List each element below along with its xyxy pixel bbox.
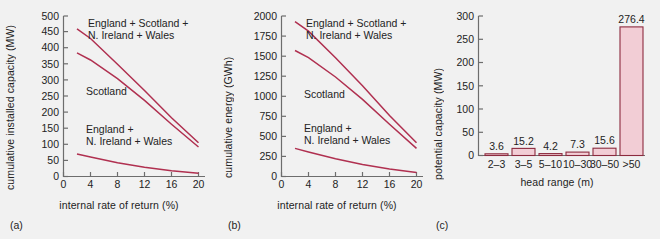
bar-value-label: 15.6 (594, 134, 615, 146)
x-tick-label: 20 (193, 178, 205, 190)
y-tick-label: 100 (41, 138, 59, 150)
panel-a-x-axis-label: internal rate of return (%) (24, 199, 214, 211)
panel-a-series-england (77, 154, 199, 173)
panel-b-plot: 0 250 500 750 1000 1250 1500 1750 2000 0 (218, 0, 440, 200)
figure-canvas: cumulative installed capacity (MW) 0 5 (0, 0, 660, 239)
x-tick-label: 4 (88, 178, 94, 190)
x-tick-label: 16 (384, 178, 396, 190)
panel-b-annotation-england-line1: England + (304, 122, 352, 134)
panel-a-annotation-england-line2: N. Ireland + Wales (86, 135, 172, 147)
panel-b-tag: (b) (228, 219, 241, 231)
x-tick-label: 12 (139, 178, 151, 190)
panel-a-annotation-england-line1: England + (86, 123, 134, 135)
y-tick-label: 0 (271, 170, 277, 182)
x-tick-label: 12 (357, 178, 369, 190)
panel-a-annotation-total-line1: England + Scotland + (88, 17, 188, 29)
y-tick-label: 0 (468, 149, 474, 161)
x-tick-label: >50 (623, 158, 641, 170)
panel-b-annotation-total-line2: N. Ireland + Wales (306, 29, 392, 41)
y-tick-label: 200 (456, 56, 474, 68)
panel-b-y-tick-labels: 0 250 500 750 1000 1250 1500 1750 2000 (254, 10, 278, 182)
y-tick-label: 100 (456, 103, 474, 115)
y-tick-label: 50 (47, 154, 59, 166)
panel-a-tag: (a) (10, 219, 23, 231)
panel-a-x-tick-labels: 0 4 8 12 16 20 (61, 178, 205, 190)
panel-c-y-tick-labels: 0 50 100 150 200 250 300 (456, 10, 474, 162)
panel-a-plot: 0 50 100 150 200 250 300 350 400 450 500 (0, 0, 222, 200)
panel-a-annotation-scotland: Scotland (86, 85, 127, 97)
y-tick-label: 1500 (254, 50, 278, 62)
x-tick-label: 0 (279, 178, 285, 190)
y-tick-label: 1250 (254, 70, 278, 82)
x-tick-label: 10–30 (563, 158, 592, 170)
bar-value-label: 15.2 (513, 135, 534, 147)
panel-b-annotation-england-line2: N. Ireland + Wales (304, 134, 390, 146)
x-tick-label: 8 (115, 178, 121, 190)
panel-b-annotation-scotland: Scotland (304, 88, 345, 100)
y-tick-label: 750 (259, 110, 277, 122)
panel-b-series-england (295, 148, 417, 172)
y-tick-label: 300 (456, 10, 474, 22)
x-tick-label: 3–5 (515, 158, 533, 170)
bar-value-label: 4.2 (543, 140, 558, 152)
y-tick-label: 500 (41, 10, 59, 22)
y-tick-label: 150 (41, 122, 59, 134)
bar-value-label: 3.6 (489, 140, 504, 152)
bar-value-label: 276.4 (618, 13, 644, 25)
bar-value-label: 7.3 (570, 138, 585, 150)
panel-b-x-axis-label: internal rate of return (%) (242, 199, 432, 211)
x-tick-label: 4 (306, 178, 312, 190)
x-tick-label: 20 (411, 178, 423, 190)
x-tick-label: 2–3 (488, 158, 506, 170)
panel-b-y-ticks (282, 16, 287, 177)
bar-3-5 (512, 148, 535, 155)
y-tick-label: 250 (456, 33, 474, 45)
y-tick-label: 50 (462, 126, 474, 138)
bar-10-30 (566, 152, 589, 155)
x-tick-label: 30–50 (590, 158, 619, 170)
x-tick-label: 8 (333, 178, 339, 190)
panel-c-x-axis-label: head range (m) (467, 176, 647, 188)
y-tick-label: 150 (456, 80, 474, 92)
y-tick-label: 500 (259, 130, 277, 142)
y-tick-label: 200 (41, 106, 59, 118)
y-tick-label: 0 (53, 170, 59, 182)
panel-c-plot: 0 50 100 150 200 250 300 3.6 15.2 4.2 7.… (432, 0, 660, 200)
y-tick-label: 2000 (254, 10, 278, 22)
panel-a-x-ticks (64, 172, 199, 177)
bar-2-3 (485, 154, 508, 156)
bar-5-10 (539, 154, 562, 156)
y-tick-label: 1750 (254, 30, 278, 42)
panel-c-y-ticks (479, 16, 484, 156)
panel-b: cumulative energy (GWh) 0 250 500 750 10… (218, 0, 440, 239)
panel-c-tag: (c) (436, 219, 448, 231)
panel-a: cumulative installed capacity (MW) 0 5 (0, 0, 222, 239)
panel-a-annotation-total-line2: N. Ireland + Wales (88, 29, 174, 41)
y-tick-label: 350 (41, 58, 59, 70)
panel-b-x-tick-labels: 0 4 8 12 16 20 (279, 178, 423, 190)
x-tick-label: 0 (61, 178, 67, 190)
bar-gt50 (620, 27, 643, 156)
x-tick-label: 16 (166, 178, 178, 190)
panel-a-y-ticks (64, 16, 69, 177)
x-tick-label: 5–10 (539, 158, 563, 170)
y-tick-label: 1000 (254, 90, 278, 102)
panel-c: potential capacity (MW) 0 50 100 150 200… (432, 0, 660, 239)
panel-b-annotation-total-line1: England + Scotland + (306, 17, 406, 29)
panel-a-y-tick-labels: 0 50 100 150 200 250 300 350 400 450 500 (41, 10, 59, 182)
y-tick-label: 450 (41, 25, 59, 37)
bar-30-50 (593, 148, 616, 155)
y-tick-label: 300 (41, 74, 59, 86)
panel-b-x-ticks (282, 172, 417, 177)
y-tick-label: 250 (41, 90, 59, 102)
y-tick-label: 250 (259, 150, 277, 162)
y-tick-label: 400 (41, 41, 59, 53)
